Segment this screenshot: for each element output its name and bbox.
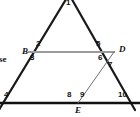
angle-label-7: 7 bbox=[108, 61, 112, 69]
angle-label-6: 6 bbox=[98, 54, 102, 62]
vertex-label-e: E bbox=[75, 106, 81, 115]
angle-label-2: 2 bbox=[36, 40, 40, 48]
angle-label-9: 9 bbox=[80, 91, 84, 99]
angle-label-8: 8 bbox=[67, 91, 71, 99]
angle-label-4: 4 bbox=[4, 91, 8, 99]
geometry-canvas bbox=[0, 0, 140, 117]
geometry-diagram: se B D E 1 2 3 4 5 6 7 8 9 10 bbox=[0, 0, 140, 117]
angle-label-10: 10 bbox=[118, 91, 127, 99]
angle-label-5: 5 bbox=[96, 40, 100, 48]
angle-label-3: 3 bbox=[30, 54, 34, 62]
left-edge-caption: se bbox=[0, 55, 7, 64]
angle-label-1: 1 bbox=[66, 0, 70, 7]
vertex-label-b: B bbox=[22, 47, 28, 56]
vertex-label-d: D bbox=[119, 45, 126, 54]
